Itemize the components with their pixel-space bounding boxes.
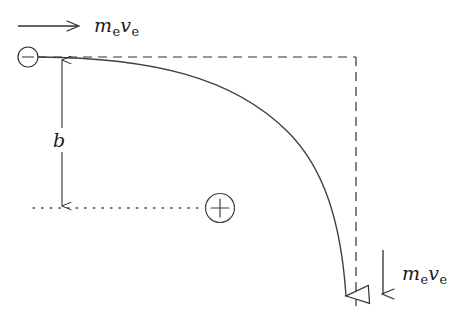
impact-parameter-symbol: b (53, 129, 65, 151)
momentum-label-bottom: meve (402, 262, 447, 287)
impact-parameter-label: b (53, 129, 65, 151)
momentum-top-mass-symbol: m (94, 14, 113, 36)
momentum-top-velocity-subscript: e (131, 24, 139, 39)
electron-trajectory-path (38, 57, 346, 296)
momentum-label-top: meve (94, 14, 139, 39)
physics-diagram: meve b meve (0, 0, 473, 331)
momentum-bottom-velocity-subscript: e (439, 272, 447, 287)
momentum-top-velocity-symbol: v (120, 14, 131, 36)
momentum-bottom-velocity-symbol: v (428, 262, 439, 284)
momentum-bottom-mass-symbol: m (402, 262, 421, 284)
